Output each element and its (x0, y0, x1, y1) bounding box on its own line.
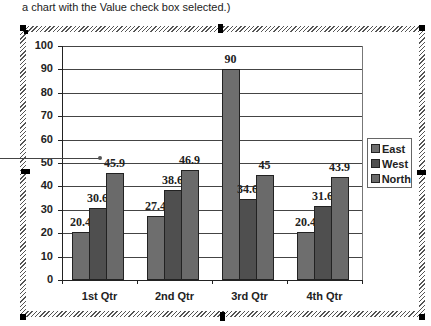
legend-label-west: West (382, 158, 408, 170)
caption-text: a chart with the Value check box selecte… (22, 1, 230, 13)
data-label-north[interactable]: 46.9 (170, 153, 210, 168)
y-axis[interactable] (62, 46, 63, 284)
y-tick-label: 70 (20, 109, 53, 121)
legend-label-north: North (382, 173, 411, 185)
legend-swatch-west (371, 159, 380, 168)
bar-west-3[interactable] (239, 199, 257, 280)
y-tick (58, 186, 62, 187)
chart-legend[interactable]: East West North (367, 138, 412, 188)
y-tick-label: 90 (20, 62, 53, 74)
legend-item-east: East (371, 141, 411, 156)
legend-item-north: North (371, 171, 411, 186)
y-tick (58, 69, 62, 70)
x-tick (137, 280, 138, 284)
y-tick (58, 233, 62, 234)
bar-west-2[interactable] (164, 190, 182, 280)
y-tick (58, 210, 62, 211)
bar-north-4[interactable] (331, 177, 349, 280)
y-tick (58, 140, 62, 141)
resize-handle-left[interactable] (21, 169, 30, 174)
x-category-label: 3rd Qtr (212, 290, 287, 302)
y-tick (58, 93, 62, 94)
y-tick-label: 100 (20, 39, 53, 51)
legend-swatch-north (371, 174, 380, 183)
bar-west-1[interactable] (89, 208, 107, 280)
gridline (62, 93, 362, 94)
resize-handle-top[interactable] (218, 24, 223, 33)
plot-right-border (362, 46, 363, 280)
resize-handle-top-left-inner[interactable] (24, 30, 28, 34)
legend-label-east: East (382, 143, 405, 155)
y-tick (58, 46, 62, 47)
bar-east-1[interactable] (72, 232, 90, 280)
x-tick (62, 280, 63, 284)
resize-handle-right[interactable] (417, 170, 426, 175)
x-category-label: 1st Qtr (62, 290, 137, 302)
y-tick-label: 30 (20, 203, 53, 215)
y-tick-label: 20 (20, 226, 53, 238)
x-category-label: 4th Qtr (287, 290, 362, 302)
x-tick (362, 280, 363, 284)
bar-east-2[interactable] (147, 216, 165, 280)
gridline (62, 116, 362, 117)
y-tick-label: 40 (20, 179, 53, 191)
y-tick-label: 80 (20, 86, 53, 98)
bar-east-4[interactable] (297, 232, 315, 280)
y-tick-label: 0 (20, 273, 53, 285)
y-tick-label: 60 (20, 133, 53, 145)
bar-east-3[interactable] (222, 69, 240, 280)
bar-north-2[interactable] (181, 170, 199, 280)
gridline (62, 69, 362, 70)
y-tick-label: 10 (20, 250, 53, 262)
gridline (62, 140, 362, 141)
bar-west-4[interactable] (314, 206, 332, 280)
bar-north-1[interactable] (106, 173, 124, 280)
x-tick (212, 280, 213, 284)
bar-north-3[interactable] (256, 175, 274, 280)
callout-leader-line (0, 158, 100, 159)
legend-item-west: West (371, 156, 411, 171)
y-tick (58, 163, 62, 164)
resize-handle-bottom-left[interactable] (20, 314, 26, 320)
data-label-north[interactable]: 45 (245, 158, 285, 173)
legend-swatch-east (371, 144, 380, 153)
resize-handle-bottom[interactable] (220, 312, 225, 321)
y-tick (58, 257, 62, 258)
gridline (62, 46, 362, 47)
data-label-east[interactable]: 90 (211, 52, 251, 67)
x-category-label: 2nd Qtr (137, 290, 212, 302)
resize-handle-top-right[interactable] (419, 25, 425, 31)
callout-leader-dot (98, 156, 102, 160)
x-axis[interactable] (58, 280, 362, 281)
resize-handle-bottom-right[interactable] (419, 314, 425, 320)
x-tick (287, 280, 288, 284)
y-tick (58, 116, 62, 117)
data-label-north[interactable]: 43.9 (320, 160, 360, 175)
